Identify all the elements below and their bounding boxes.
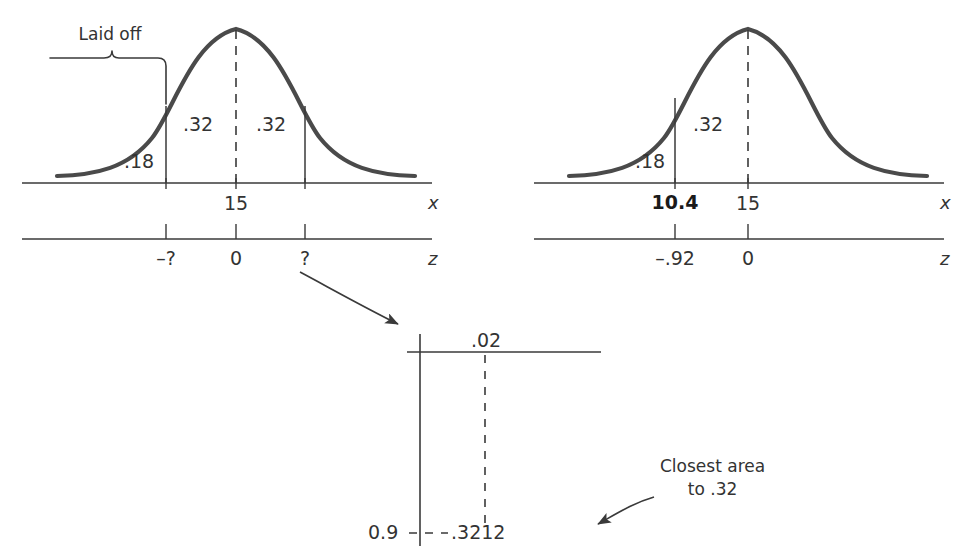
left-area-mid-right-label: .32 (256, 115, 286, 134)
left-x-tick-label-mean: 15 (224, 194, 248, 213)
right-x-tick-label-mean: 15 (736, 194, 760, 213)
table-column-header: .02 (471, 331, 501, 350)
laid-off-callout-label: Laid off (79, 26, 142, 43)
arrow-to-table (300, 272, 398, 324)
closest-area-annotation: Closest area to .32 (660, 455, 765, 501)
closest-area-annotation-line1: Closest area (660, 455, 765, 478)
table-row-header: 0.9 (368, 523, 398, 542)
table-cell-value: .3212 (451, 523, 505, 542)
left-x-axis-variable-label: x (428, 194, 439, 212)
right-area-tail-label: .18 (635, 152, 665, 171)
right-x-tick-label-value: 10.4 (652, 193, 699, 212)
right-z-axis-variable-label: z (940, 250, 949, 268)
figure-canvas: Laid off .18 .32 .32 15 x –? 0 ? z .18 .… (0, 0, 978, 552)
left-area-mid-left-label: .32 (183, 115, 213, 134)
arrow-to-cell (598, 497, 654, 524)
left-z-axis-variable-label: z (428, 250, 437, 268)
left-area-tail-label: .18 (124, 152, 154, 171)
right-z-tick-label-zero: 0 (742, 249, 754, 268)
right-z-tick-label-value: –.92 (655, 249, 695, 268)
right-x-axis-variable-label: x (940, 194, 951, 212)
right-area-mid-left-label: .32 (693, 115, 723, 134)
left-z-tick-label-negative: –? (156, 249, 176, 268)
left-z-tick-label-positive: ? (300, 249, 310, 268)
diagram-vector-layer (0, 0, 978, 552)
closest-area-annotation-line2: to .32 (660, 478, 765, 501)
left-z-tick-label-zero: 0 (230, 249, 242, 268)
laid-off-brace (50, 51, 166, 104)
